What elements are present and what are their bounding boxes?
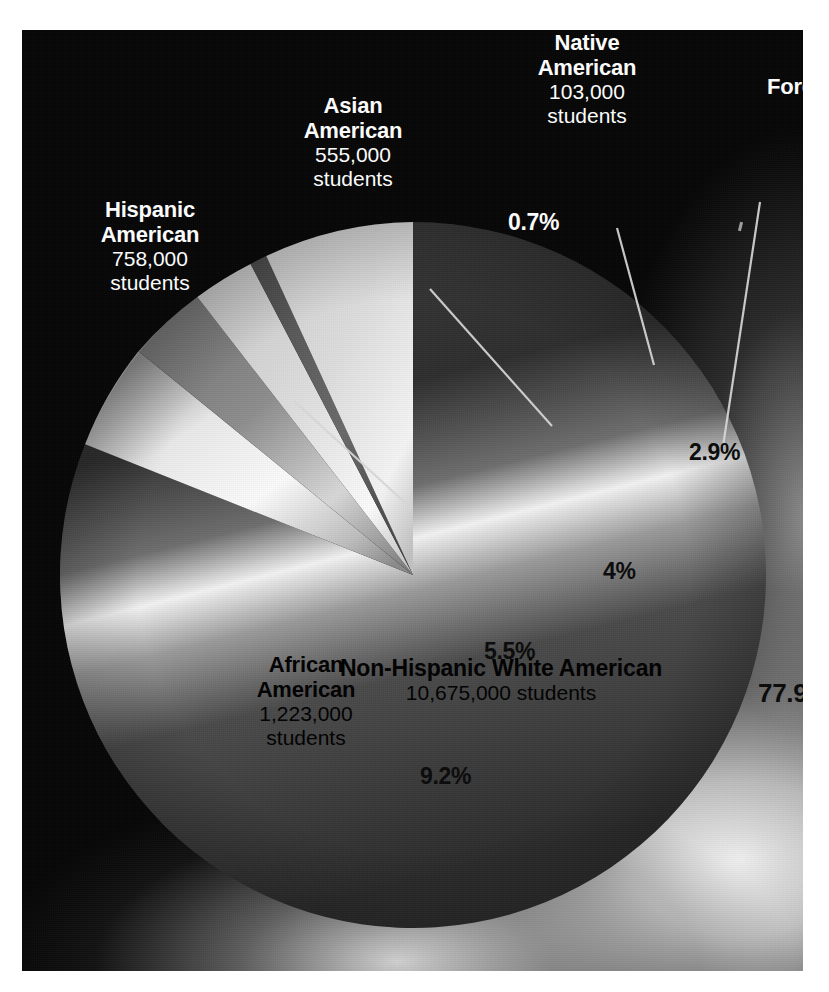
chart-panel: Asian American 555,000 students Hispanic… [22, 30, 803, 971]
film-grain-overlay [22, 30, 803, 971]
figure-page: Asian American 555,000 students Hispanic… [0, 0, 829, 992]
